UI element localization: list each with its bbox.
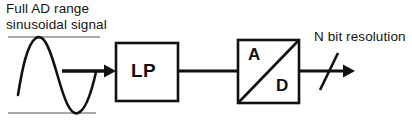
input-signal-arrowhead bbox=[104, 65, 116, 78]
sinusoidal-waveform bbox=[18, 37, 96, 113]
output-signal-arrowhead bbox=[343, 65, 355, 78]
adc-digital-label: D bbox=[276, 76, 288, 96]
low-pass-filter-label: LP bbox=[131, 60, 156, 82]
ad-conversion-block-diagram: Full AD range sinusoidal signal N bit re… bbox=[0, 0, 412, 133]
adc-analog-label: A bbox=[248, 45, 260, 65]
diagram-canvas bbox=[0, 0, 412, 133]
